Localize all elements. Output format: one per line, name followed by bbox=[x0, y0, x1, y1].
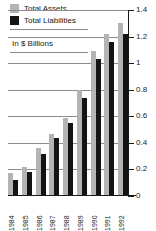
bar-group bbox=[91, 10, 101, 196]
bar-group bbox=[36, 10, 46, 196]
x-axis-label-1984: 1984 bbox=[8, 197, 18, 231]
legend-divider bbox=[10, 29, 88, 30]
bar-liabilities-1989 bbox=[82, 98, 87, 196]
bar-group bbox=[63, 10, 73, 196]
y-axis-tick bbox=[128, 37, 134, 38]
y-axis-tick bbox=[128, 63, 134, 64]
bar-group bbox=[77, 10, 87, 196]
y-axis-tick bbox=[128, 90, 134, 91]
x-axis-label-1989: 1989 bbox=[77, 197, 87, 231]
y-axis-tick bbox=[128, 143, 134, 144]
plot-area bbox=[8, 10, 128, 196]
bar-liabilities-1984 bbox=[13, 180, 18, 196]
bar-group bbox=[8, 10, 18, 196]
legend-divider bbox=[10, 52, 88, 53]
bar-liabilities-1987 bbox=[54, 138, 59, 196]
bar-liabilities-1986 bbox=[41, 154, 46, 197]
bar-liabilities-1988 bbox=[68, 123, 73, 196]
y-axis-label: 1.4 bbox=[136, 6, 147, 14]
y-axis-tick bbox=[128, 116, 134, 117]
y-axis-tick bbox=[128, 196, 134, 197]
y-axis-tick bbox=[128, 169, 134, 170]
x-axis-label-1987: 1987 bbox=[49, 197, 59, 231]
y-axis-tick bbox=[128, 10, 134, 11]
x-axis-label-1988: 1988 bbox=[63, 197, 73, 231]
bar-group bbox=[104, 10, 114, 196]
bar-liabilities-1990 bbox=[96, 59, 101, 196]
bar-group bbox=[118, 10, 128, 196]
y-axis-label: 0 bbox=[136, 192, 140, 200]
bar-liabilities-1985 bbox=[27, 172, 32, 196]
y-axis-label: 0.4 bbox=[136, 139, 147, 147]
x-axis-label-1992: 1992 bbox=[118, 197, 128, 231]
axis-baseline bbox=[8, 195, 136, 196]
x-axis-label-1986: 1986 bbox=[36, 197, 46, 231]
y-axis-label: 0.6 bbox=[136, 112, 147, 120]
x-axis-label-1985: 1985 bbox=[22, 197, 32, 231]
y-axis: 1.41.210.80.60.40.20 bbox=[128, 0, 156, 231]
x-axis-label-1991: 1991 bbox=[104, 197, 114, 231]
x-axis-label-1990: 1990 bbox=[91, 197, 101, 231]
y-axis-label: 1.2 bbox=[136, 33, 147, 41]
bar-liabilities-1991 bbox=[109, 42, 114, 196]
y-axis-label: 0.2 bbox=[136, 165, 147, 173]
y-axis-spine bbox=[128, 10, 129, 196]
bar-group bbox=[22, 10, 32, 196]
y-axis-label: 1 bbox=[136, 59, 140, 67]
x-axis: 198419851986198719881989199019911992 bbox=[8, 197, 128, 231]
y-axis-label: 0.8 bbox=[136, 86, 147, 94]
bar-group bbox=[49, 10, 59, 196]
bar-chart: Total Assets Total Liabilities In $ Bill… bbox=[0, 0, 156, 231]
bar-groups bbox=[8, 10, 128, 196]
